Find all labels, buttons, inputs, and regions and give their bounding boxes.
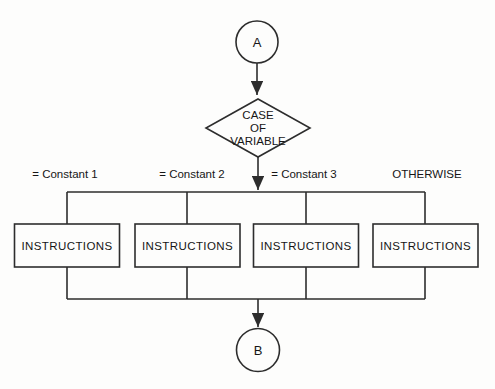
branch-4-condition-label: OTHERWISE [392, 168, 462, 180]
branch-2-condition-label: = Constant 2 [159, 168, 225, 180]
branch-1-process-label: INSTRUCTIONS [21, 240, 112, 252]
branch-2-process-label: INSTRUCTIONS [142, 240, 233, 252]
end-connector-label: B [254, 343, 263, 358]
branch-3-process-label: INSTRUCTIONS [260, 240, 351, 252]
branch-3-condition-label: = Constant 3 [271, 168, 337, 180]
start-connector-label: A [253, 35, 262, 50]
branch-1-condition-label: = Constant 1 [32, 168, 98, 180]
flowchart-svg: A CASE OF VARIABLE = Constant 1 = Consta… [0, 0, 495, 389]
decision-label-line3: VARIABLE [230, 135, 286, 147]
decision-label-line1: CASE [242, 109, 274, 121]
decision-label-line2: OF [250, 122, 266, 134]
flowchart-canvas: A CASE OF VARIABLE = Constant 1 = Consta… [0, 0, 495, 389]
branch-4-process-label: INSTRUCTIONS [380, 240, 471, 252]
